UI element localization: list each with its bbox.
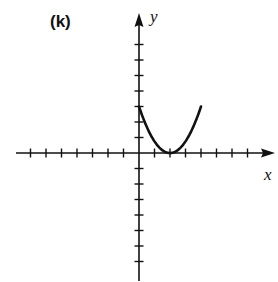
y-axis-label: y <box>148 7 158 26</box>
x-axis-label: x <box>263 165 272 184</box>
parabola-curve <box>139 107 201 154</box>
graph-canvas: (k) x y <box>0 0 278 282</box>
x-axis-arrow-icon <box>261 149 275 158</box>
y-axis: y <box>135 7 159 281</box>
x-axis: x <box>16 149 275 185</box>
y-axis-arrow-icon <box>135 13 144 27</box>
panel-label: (k) <box>50 12 71 31</box>
